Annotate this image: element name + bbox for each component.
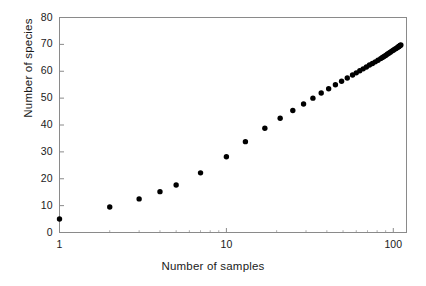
y-tick-label: 70 [27, 37, 53, 49]
data-point [277, 116, 282, 121]
y-tick-label: 10 [27, 199, 53, 211]
data-point [173, 182, 178, 187]
data-point [198, 170, 203, 175]
data-point [157, 189, 162, 194]
x-tick-label: 10 [206, 238, 246, 250]
data-point [243, 139, 248, 144]
data-point [339, 78, 344, 83]
y-tick-label: 0 [27, 226, 53, 238]
data-point [398, 42, 403, 47]
data-point [345, 75, 350, 80]
data-point [57, 216, 62, 221]
data-point [326, 86, 331, 91]
y-tick-label: 20 [27, 172, 53, 184]
y-tick-label: 30 [27, 145, 53, 157]
y-tick-label: 40 [27, 118, 53, 130]
data-point [319, 90, 324, 95]
data-point [333, 82, 338, 87]
x-tick-label: 1 [40, 238, 80, 250]
data-point [290, 108, 295, 113]
data-point [262, 126, 267, 131]
data-point [310, 95, 315, 100]
data-series [57, 42, 404, 222]
y-tick-label: 80 [27, 11, 53, 23]
data-point [301, 101, 306, 106]
plot-frame [60, 18, 407, 233]
y-tick-label: 50 [27, 91, 53, 103]
data-point [136, 196, 141, 201]
data-point [224, 154, 229, 159]
data-point [107, 204, 112, 209]
x-tick-label: 100 [373, 238, 413, 250]
species-accumulation-chart: Number of species Number of samples 0102… [0, 0, 426, 286]
y-tick-label: 60 [27, 64, 53, 76]
